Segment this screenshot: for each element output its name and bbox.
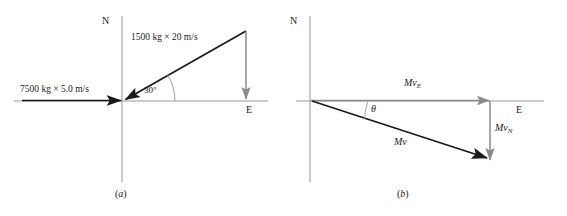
resultant-east-component-label-base: Mv (404, 77, 417, 88)
panel-a-north-axis-label: N (102, 16, 109, 26)
truck-momentum-label: 7500 kg × 5.0 m/s (20, 85, 89, 95)
panel-b: N E MvE MvN Mv θ (b) (284, 0, 567, 216)
thirty-degree-arc (168, 75, 176, 102)
thirty-degree-angle-label: 30° (144, 86, 157, 95)
theta-angle-label: θ (371, 104, 376, 114)
resultant-east-component-label: MvE (404, 78, 421, 90)
resultant-north-component-label-subscript: N (508, 127, 513, 135)
resultant-north-component-label-base: Mv (495, 122, 508, 133)
panel-b-north-axis-label: N (290, 16, 297, 26)
panel-a: N E 7500 kg × 5.0 m/s 1500 kg × 20 m/s 3… (0, 0, 284, 216)
resultant-north-component-label: MvN (495, 123, 512, 135)
car-momentum-label: 1500 kg × 20 m/s (131, 33, 198, 43)
panel-b-graphics (284, 0, 567, 216)
resultant-east-component-label-subscript: E (417, 82, 421, 90)
theta-arc (365, 101, 369, 120)
resultant-momentum-vector (312, 101, 487, 158)
panel-b-east-axis-label: E (516, 105, 522, 115)
resultant-momentum-label: Mv (394, 137, 407, 147)
panel-a-east-axis-label: E (246, 105, 252, 115)
physics-vector-figure: N E 7500 kg × 5.0 m/s 1500 kg × 20 m/s 3… (0, 0, 567, 216)
panel-a-caption: (a) (115, 188, 127, 199)
panel-b-caption: (b) (397, 188, 409, 199)
